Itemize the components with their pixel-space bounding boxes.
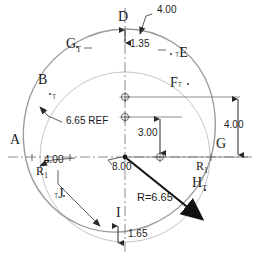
dim-text-8-00: 8.00 [112, 162, 131, 172]
tangent-ticks [32, 48, 211, 161]
point-label-h: HT [192, 176, 207, 193]
dim-text-1-35: 1.35 [130, 39, 149, 49]
point-label-b: B [38, 73, 47, 87]
point-label-e: TE [175, 46, 188, 60]
radius-label-r1-right: R1 [196, 160, 208, 175]
dim-text-4-00-left: 4.00 [44, 155, 63, 165]
point-label-d: D [118, 10, 128, 24]
dim-text-4-00-right: 4.00 [224, 120, 243, 130]
radius-label-r1-left: R1 [36, 165, 48, 180]
point-label-g-top: GT [66, 37, 81, 54]
profile-pointer-leader [58, 170, 100, 226]
dim-text-3-00: 3.00 [138, 128, 157, 138]
center-marker-upper [120, 92, 131, 103]
center-marker-right [155, 152, 166, 163]
engineering-drawing-canvas: A B T D TE FT GT G HT I TJ R1 R1 4.00 1.… [0, 0, 262, 263]
point-label-g-right: G [216, 137, 226, 151]
point-label-a: A [10, 133, 20, 147]
point-label-j: TJ [54, 187, 64, 201]
dim-text-6-65-ref: 6.65 REF [66, 116, 108, 126]
origin-point [123, 155, 128, 160]
dim-text-radius: R=6.65 [137, 192, 173, 203]
dim-text-4-00-top: 4.00 [157, 5, 176, 15]
tangent-marker-b: T [52, 93, 56, 100]
point-label-f: FT [170, 76, 182, 90]
radius-arrow [125, 157, 201, 218]
point-label-i: I [116, 206, 121, 220]
dim-text-1-65: 1.65 [128, 229, 147, 239]
center-marker-middle [120, 112, 131, 123]
